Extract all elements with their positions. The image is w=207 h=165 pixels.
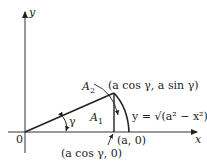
region-a2-label: A2 <box>82 81 95 95</box>
region-a1-label: A1 <box>90 112 103 126</box>
angle-arc <box>63 117 67 131</box>
angle-label: γ <box>69 116 76 127</box>
foot-pointer <box>108 134 113 145</box>
curve-equation-label: y = √(a² − x²) <box>132 111 207 122</box>
top-point-label: (a cos γ, a sin γ) <box>108 80 199 91</box>
x-axis-label: x <box>195 134 201 145</box>
origin-label: 0 <box>16 134 23 145</box>
y-axis-label: y <box>29 7 35 18</box>
circle-arc <box>114 93 129 132</box>
a0-point-label: (a, 0) <box>117 135 146 146</box>
foot-point-label: (a cos γ, 0) <box>61 148 122 159</box>
